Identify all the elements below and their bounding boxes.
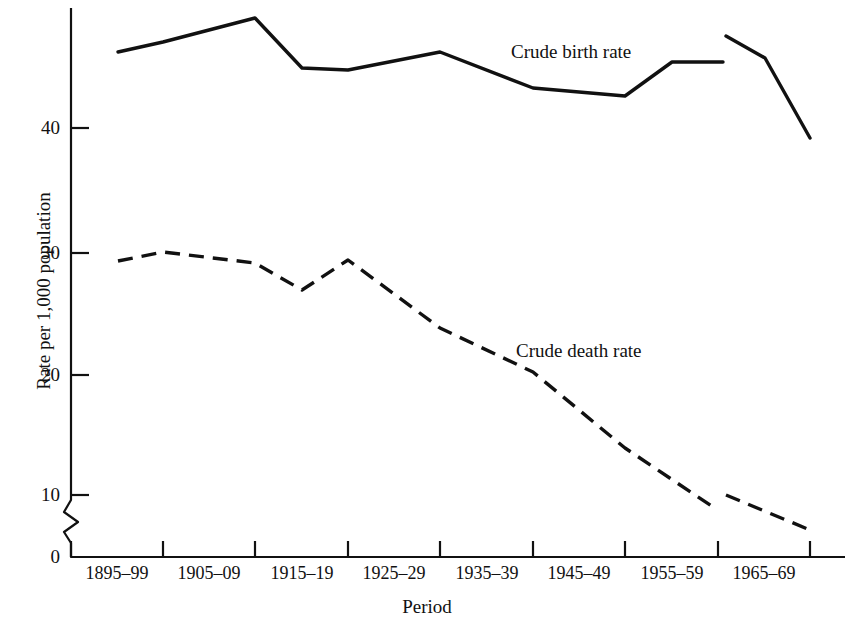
y-axis-title: Rate per 1,000 population xyxy=(33,161,55,421)
series-crude-birth-rate-segment-1 xyxy=(118,18,723,96)
series-crude-birth-rate-segment-2 xyxy=(726,36,810,138)
series-label-crude-death-rate: Crude death rate xyxy=(516,340,642,362)
chart-figure: 40 30 20 10 0 Rate per 1,000 population … xyxy=(0,0,854,631)
series-crude-death-rate-segment-1 xyxy=(118,252,716,509)
y-axis-ticks xyxy=(71,128,89,495)
x-axis-ticks xyxy=(71,541,810,557)
y-tick-label-0: 0 xyxy=(14,546,60,568)
x-tick-label-7: 1965–69 xyxy=(709,563,819,584)
series-label-crude-birth-rate: Crude birth rate xyxy=(511,41,631,63)
x-axis-title: Period xyxy=(0,596,854,618)
y-tick-label-40: 40 xyxy=(14,117,60,139)
chart-plot-area xyxy=(0,0,854,631)
y-tick-label-10: 10 xyxy=(14,484,60,506)
series-crude-death-rate-segment-2 xyxy=(726,495,810,530)
